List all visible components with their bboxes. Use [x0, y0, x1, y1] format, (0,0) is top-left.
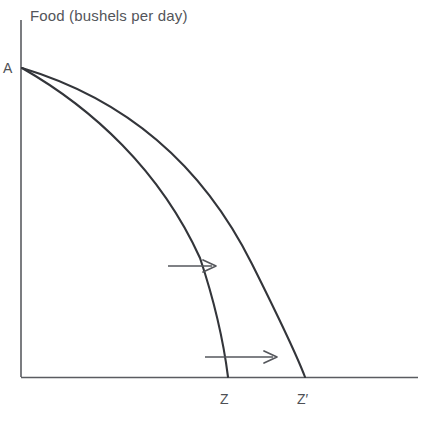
point-label-z: Z	[220, 391, 229, 407]
shift-arrow-lower-icon	[205, 351, 277, 363]
ppf-curve-shifted	[22, 68, 305, 377]
ppf-curve-original	[22, 68, 228, 377]
point-label-a: A	[3, 60, 12, 76]
y-axis-title: Food (bushels per day)	[30, 7, 188, 24]
ppf-figure: Food (bushels per day) A Z Z′	[0, 0, 421, 423]
shift-arrow-upper-icon	[168, 260, 216, 272]
point-label-z-prime: Z′	[297, 391, 308, 407]
ppf-chart-canvas	[0, 0, 421, 423]
